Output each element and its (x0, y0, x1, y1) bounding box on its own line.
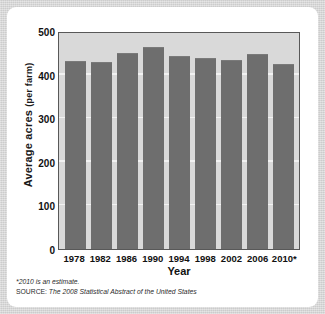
x-axis-tick-2002: 2002 (219, 253, 243, 264)
x-axis-title: Year (58, 265, 300, 277)
footnote-source: SOURCE: The 2008 Statistical Abstract of… (16, 287, 306, 297)
bar-1990 (143, 47, 164, 249)
bar-series (59, 33, 299, 249)
bar-1994 (169, 56, 190, 249)
y-axis-tick-300: 300 (19, 114, 55, 125)
x-axis-tick-1978: 1978 (62, 253, 86, 264)
source-text: The 2008 Statistical Abstract of the Uni… (49, 288, 197, 295)
y-axis-tick-0: 0 (19, 245, 55, 256)
y-axis-tick-100: 100 (19, 201, 55, 212)
y-axis-tick-labels: 5004003002001000 (19, 29, 55, 253)
x-axis-tick-labels: 197819821986199019941998200220062010* (58, 253, 300, 264)
x-axis-tick-1990: 1990 (141, 253, 165, 264)
bar-1978 (65, 61, 86, 249)
bar-1986 (117, 53, 138, 249)
source-label: SOURCE: (16, 288, 47, 295)
x-axis-tick-1986: 1986 (115, 253, 139, 264)
x-axis-tick-1994: 1994 (167, 253, 191, 264)
y-axis-tick-400: 400 (19, 70, 55, 81)
x-axis-tick-1982: 1982 (88, 253, 112, 264)
bar-1982 (91, 62, 112, 249)
bar-1998 (195, 58, 216, 249)
plot-area (58, 32, 300, 250)
y-axis-tick-200: 200 (19, 157, 55, 168)
chart-figure: Average acres (per farm) 500400300200100… (7, 7, 318, 307)
x-axis-tick-2006: 2006 (246, 253, 270, 264)
x-axis-tick-2010: 2010* (272, 253, 296, 264)
bar-2010 (273, 64, 294, 249)
bar-2002 (221, 60, 242, 249)
footnote-estimate: *2010 is an estimate. (16, 277, 306, 287)
chart-notes: *2010 is an estimate. SOURCE: The 2008 S… (16, 277, 306, 297)
bar-2006 (247, 54, 268, 249)
x-axis-tick-1998: 1998 (193, 253, 217, 264)
chart-card: Average acres (per farm) 500400300200100… (7, 7, 318, 307)
y-axis-tick-500: 500 (19, 27, 55, 38)
